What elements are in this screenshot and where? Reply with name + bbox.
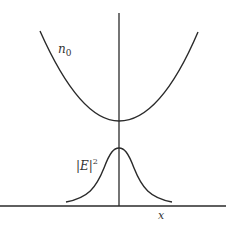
index-label: n0 [58, 42, 72, 58]
x-axis-label: x [158, 209, 165, 222]
diagram-canvas: n0 |E|2 x [0, 0, 237, 226]
intensity-label: |E|2 [76, 157, 98, 173]
